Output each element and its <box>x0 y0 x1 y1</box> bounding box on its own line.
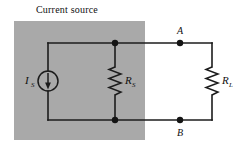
node-a-dot <box>177 40 183 46</box>
circuit-diagram: Current source I S R S R L <box>0 0 246 146</box>
source-resistor-label: R <box>124 74 132 86</box>
load-resistor-sublabel: L <box>228 81 233 89</box>
junction-top <box>112 40 118 46</box>
figure-canvas: Current source I S R S R L <box>0 0 246 146</box>
node-b-dot <box>177 117 183 123</box>
node-a-label: A <box>176 25 184 36</box>
node-b-label: B <box>177 127 183 138</box>
load-resistor-label: R <box>221 74 229 86</box>
current-source-sublabel: S <box>31 81 35 89</box>
source-resistor-sublabel: S <box>132 81 136 89</box>
load-resistor-zigzag-icon <box>206 67 218 95</box>
page-title: Current source <box>36 4 98 15</box>
junction-bottom <box>112 117 118 123</box>
